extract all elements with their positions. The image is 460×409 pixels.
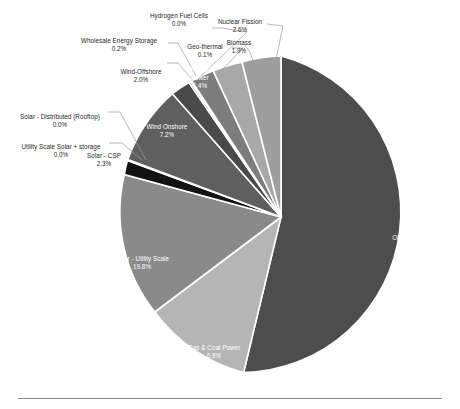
label-oil-gas-pct: 51.1%	[382, 242, 430, 250]
label-hydro-power: Hydro- power 1.4%	[185, 66, 215, 91]
label-solar-distributed-rooftop-text: Solar - Distributed (Rooftop)	[20, 113, 100, 120]
label-wholesale-energy-storage-pct: 0.2%	[68, 45, 170, 53]
label-hydro-power-text1: Hydro-	[190, 66, 209, 73]
label-hydrogen-fuel-cells-text: Hydrogen Fuel Cells	[150, 12, 208, 19]
label-wind-onshore-text: Wind Onshore	[147, 123, 188, 130]
label-solar-csp: Solar - CSP 2.3%	[78, 152, 130, 168]
label-solar-csp-pct: 2.3%	[78, 160, 130, 168]
label-gas-coal-power: Gas & Coal Power 6.8%	[180, 344, 248, 360]
label-geo-thermal-pct: 0.1%	[175, 51, 235, 59]
label-solar-utility-scale-pct: 19.8%	[106, 263, 178, 271]
label-geo-thermal: Geo-thermal 0.1%	[175, 43, 235, 59]
leader-nuclear-fission	[267, 24, 283, 59]
label-wind-onshore: Wind Onshore 7.2%	[139, 123, 195, 139]
pie-chart: Hydrogen Fuel Cells 0.0% Nuclear Fission…	[0, 0, 460, 409]
label-gas-coal-power-text: Gas & Coal Power	[188, 344, 241, 351]
label-wind-onshore-pct: 7.2%	[139, 131, 195, 139]
label-solar-distributed-rooftop-pct: 0.0%	[10, 121, 110, 129]
label-wholesale-energy-storage: Wholesale Energy Storage 0.2%	[68, 37, 170, 53]
label-nuclear-fission-pct: 2.6%	[212, 26, 268, 34]
label-oil-gas: Oil & Gas 51.1%	[382, 234, 430, 250]
label-wind-offshore-pct: 2.0%	[112, 76, 170, 84]
label-geo-thermal-text: Geo-thermal	[187, 43, 223, 50]
label-wholesale-energy-storage-text: Wholesale Energy Storage	[81, 37, 157, 44]
label-solar-distributed-rooftop: Solar - Distributed (Rooftop) 0.0%	[10, 113, 110, 129]
label-solar-utility-scale-text: Solar - Utility Scale	[115, 255, 169, 262]
pie-slices	[120, 56, 401, 373]
label-solar-csp-text: Solar - CSP	[87, 152, 121, 159]
label-hydrogen-fuel-cells: Hydrogen Fuel Cells 0.0%	[143, 12, 215, 28]
label-hydro-power-text2: power	[191, 74, 208, 81]
label-hydrogen-fuel-cells-pct: 0.0%	[143, 20, 215, 28]
label-nuclear-fission-text: Nuclear Fission	[218, 18, 262, 25]
label-utility-scale-solar-storage-text: Utility Scale Solar + storage	[22, 143, 101, 150]
label-gas-coal-power-pct: 6.8%	[180, 352, 248, 360]
label-nuclear-fission: Nuclear Fission 2.6%	[212, 18, 268, 34]
label-wind-offshore-text: Wind-Offshore	[120, 68, 161, 75]
label-hydro-power-pct: 1.4%	[185, 82, 215, 90]
label-wind-offshore: Wind-Offshore 2.0%	[112, 68, 170, 84]
footer-divider	[18, 398, 442, 399]
label-oil-gas-text: Oil & Gas	[392, 234, 419, 241]
label-solar-utility-scale: Solar - Utility Scale 19.8%	[106, 255, 178, 271]
